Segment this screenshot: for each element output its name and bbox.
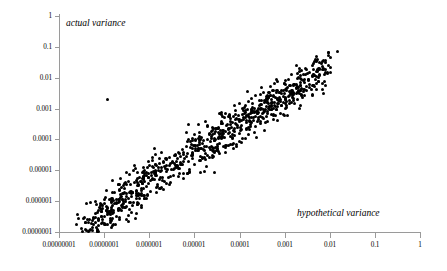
data-point (185, 131, 188, 134)
data-point (110, 197, 113, 200)
data-point (168, 156, 171, 159)
data-point (229, 135, 232, 138)
data-point (125, 171, 128, 174)
data-point (262, 91, 265, 94)
data-point (76, 213, 79, 216)
data-point (104, 196, 107, 199)
data-point (92, 223, 95, 226)
data-point (158, 157, 161, 160)
data-point (172, 174, 175, 177)
data-point (156, 185, 159, 188)
data-point (272, 114, 275, 117)
data-point (199, 155, 202, 158)
data-point (153, 147, 156, 150)
data-point (143, 169, 146, 172)
data-point (160, 186, 163, 189)
data-point (158, 162, 161, 165)
data-point (113, 191, 116, 194)
data-point (169, 175, 172, 178)
data-point (82, 217, 85, 220)
y-axis-title: actual variance (66, 18, 125, 28)
data-point (324, 84, 327, 87)
data-point (240, 124, 243, 127)
data-point (151, 156, 154, 159)
data-point (132, 169, 135, 172)
data-point (249, 125, 252, 128)
data-point (329, 71, 332, 74)
data-point (233, 127, 236, 130)
data-point (276, 80, 279, 83)
data-point (251, 102, 254, 105)
data-point (238, 132, 241, 135)
data-point (106, 98, 109, 101)
data-point (223, 116, 226, 119)
data-point (204, 120, 207, 123)
data-point (87, 230, 90, 233)
data-point (321, 88, 324, 91)
data-point (314, 78, 317, 81)
data-point (77, 217, 80, 220)
data-point (187, 123, 190, 126)
data-point (198, 141, 201, 144)
data-point (265, 115, 268, 118)
data-point (136, 171, 139, 174)
data-point (235, 145, 238, 148)
data-point (229, 143, 232, 146)
data-point (127, 220, 130, 223)
data-point (259, 115, 262, 118)
data-point (311, 64, 314, 67)
data-point (205, 165, 208, 168)
data-point (140, 180, 143, 183)
data-point (247, 100, 250, 103)
data-point (124, 206, 127, 209)
data-point (206, 125, 209, 128)
data-point (260, 86, 263, 89)
data-point (140, 204, 143, 207)
data-point (233, 104, 236, 107)
data-point (179, 155, 182, 158)
data-point (176, 157, 179, 160)
data-point (145, 185, 148, 188)
data-point (193, 163, 196, 166)
data-point (159, 170, 162, 173)
data-point (224, 151, 227, 154)
data-point (323, 80, 326, 83)
data-point (149, 190, 152, 193)
data-point (241, 107, 244, 110)
data-point (155, 191, 158, 194)
data-point (290, 73, 293, 76)
data-point (147, 160, 150, 163)
data-point (250, 121, 253, 124)
data-point (263, 129, 266, 132)
data-point (178, 152, 181, 155)
data-point (318, 73, 321, 76)
data-point (80, 227, 83, 230)
data-point (311, 93, 314, 96)
data-point (213, 171, 216, 174)
data-point (97, 218, 100, 221)
data-point (247, 133, 250, 136)
data-point (250, 111, 253, 114)
data-point (109, 213, 112, 216)
data-point (321, 65, 324, 68)
data-point (194, 149, 197, 152)
data-point (272, 95, 275, 98)
data-point (100, 208, 103, 211)
data-point (203, 156, 206, 159)
data-point (255, 136, 258, 139)
data-point (131, 191, 134, 194)
data-point (271, 89, 274, 92)
data-point (138, 197, 141, 200)
data-point (187, 138, 190, 141)
data-point (130, 211, 133, 214)
data-point (186, 172, 189, 175)
data-point (259, 93, 262, 96)
data-point (142, 187, 145, 190)
data-point (318, 61, 321, 64)
data-point (198, 159, 201, 162)
data-point (111, 179, 114, 182)
data-point (317, 80, 320, 83)
data-point (191, 153, 194, 156)
data-point (154, 153, 157, 156)
data-point (163, 165, 166, 168)
